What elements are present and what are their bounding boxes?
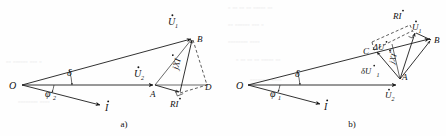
label-current-a: I bbox=[104, 100, 109, 113]
phasor-dot-ri-b bbox=[402, 10, 404, 12]
label-u2-b: U 2 bbox=[385, 89, 395, 102]
label-angle-phi1-b: φ 1 bbox=[270, 88, 281, 101]
label-u2-b-sub: 2 bbox=[392, 96, 395, 102]
label-angle-phi2-a-sub: 2 bbox=[53, 95, 56, 101]
label-jxi-a: jXI bbox=[169, 54, 184, 71]
dashed-b-to-d bbox=[193, 40, 207, 85]
figure-root: ▫ ▫▫ ▫▫ ▫▫ ▫▫▫▫▫ ▫▫ ▫▫ ▫▫▫▫▫▫ ▫▫▫ ▫ ▫▫▫▫… bbox=[0, 0, 446, 136]
label-point-a-a: A bbox=[149, 89, 156, 99]
ghost-line-7: ▫▫▫▫▫▫▫▫ ▫▫▫▫ bbox=[18, 98, 50, 105]
label-small-delta-u1-b-sub: 1 bbox=[377, 72, 380, 78]
ghost-line-2: ▫▫ ▫▫▫▫▫▫ ▫▫▫ ▫ bbox=[228, 21, 264, 28]
phasor-diagram-b: O A B C U 1 U 2 I bbox=[236, 10, 440, 129]
label-u1-b-sub: 1 bbox=[419, 28, 422, 34]
label-small-delta-u1-b-text: δU bbox=[361, 66, 372, 76]
label-angle-phi2-a-text: φ bbox=[45, 88, 51, 99]
ghost-line-6: ▫▫ ▫▫▫▫▫▫ ▫▫▫ ▫ bbox=[6, 58, 42, 65]
label-u1-a-sub: 1 bbox=[175, 23, 178, 29]
phasor-dot-u2-b bbox=[388, 89, 390, 91]
label-jxi-b-text: jXI bbox=[387, 52, 399, 65]
ghost-line-1: ▫ ▫▫ ▫▫ ▫▫ ▫▫▫▫▫ ▫▫ bbox=[228, 4, 272, 11]
label-angle-phi1-b-text: φ bbox=[270, 88, 276, 99]
phasor-dot-ri-a bbox=[179, 98, 181, 100]
phasor-dot-current-b bbox=[326, 99, 328, 101]
phasor-dot-u2-a bbox=[137, 66, 139, 68]
vector-current-b bbox=[248, 85, 320, 104]
phasor-dot-small-delta-u1-b bbox=[373, 65, 375, 67]
label-ri-a-text: RI bbox=[169, 99, 179, 109]
label-current-b-text: I bbox=[323, 101, 328, 112]
label-ri-b-text: RI bbox=[392, 11, 402, 21]
label-delta-u1-b-sub: 1 bbox=[389, 48, 392, 54]
dashed-e-to-d bbox=[180, 85, 207, 93]
label-current-a-text: I bbox=[104, 102, 109, 113]
label-u2-a-sub: 2 bbox=[141, 75, 144, 81]
ghost-line-4: ▫ ▫▫ ▫▫ ▫▫ ▫▫▫▫▫ ▫▫ bbox=[236, 56, 280, 63]
label-small-delta-u1-b: δU 1 bbox=[361, 65, 380, 78]
vector-u1-a bbox=[22, 39, 191, 85]
caption-b: b) bbox=[348, 119, 356, 129]
label-angle-phi1-b-sub: 1 bbox=[278, 95, 281, 101]
dashed-top-b bbox=[372, 25, 410, 42]
caption-a: a) bbox=[121, 119, 128, 129]
phasor-dot-jxi-a bbox=[172, 54, 174, 56]
label-point-o-a: O bbox=[9, 80, 16, 91]
vector-jxi-b bbox=[416, 33, 431, 40]
label-u2-a: U 2 bbox=[134, 66, 144, 81]
phasor-diagram-a: O A B D U 1 U 2 I bbox=[9, 14, 212, 129]
label-u1-a: U 1 bbox=[168, 14, 178, 29]
ghost-line-5: ▫▫▫▫▫▫▫▫ ▫▫▫▫ bbox=[250, 76, 282, 83]
phasor-dot-current-a bbox=[107, 100, 109, 102]
label-jxi-b: jXI bbox=[386, 50, 400, 66]
label-delta-u1-b-text: ΔU bbox=[372, 42, 385, 52]
label-jxi-a-text: jXI bbox=[170, 56, 183, 71]
ghost-line-3: ▫▫▫▫▫▫▫▫ ▫▫▫▫ bbox=[228, 38, 260, 45]
label-u1-b: U 1 bbox=[412, 21, 422, 35]
label-point-b-b: B bbox=[434, 35, 440, 45]
right-angle-mark-b bbox=[409, 34, 414, 38]
angle-arc-phi1-b bbox=[278, 85, 280, 92]
phasor-dot-u1-b bbox=[415, 21, 417, 23]
label-current-b: I bbox=[323, 99, 328, 112]
phasor-dot-delta-u1-b bbox=[386, 41, 388, 43]
phasor-dot-u1-a bbox=[171, 14, 173, 16]
label-ri-a: RI bbox=[169, 98, 181, 109]
label-point-a-b: A bbox=[401, 72, 408, 82]
vector-jxi-a bbox=[180, 40, 192, 92]
label-point-o-b: O bbox=[236, 80, 243, 91]
label-angle-delta-a: δ bbox=[67, 67, 72, 78]
label-point-c-b: C bbox=[363, 46, 370, 56]
label-ri-b: RI bbox=[392, 10, 404, 21]
label-point-d-a: D bbox=[204, 82, 212, 92]
label-point-b-a: B bbox=[197, 34, 203, 44]
angle-arc-phi2-a bbox=[52, 85, 54, 93]
label-angle-delta-b: δ bbox=[295, 68, 300, 79]
phasor-figure-svg: ▫ ▫▫ ▫▫ ▫▫ ▫▫▫▫▫ ▫▫ ▫▫ ▫▫▫▫▫▫ ▫▫▫ ▫ ▫▫▫▫… bbox=[0, 0, 446, 136]
